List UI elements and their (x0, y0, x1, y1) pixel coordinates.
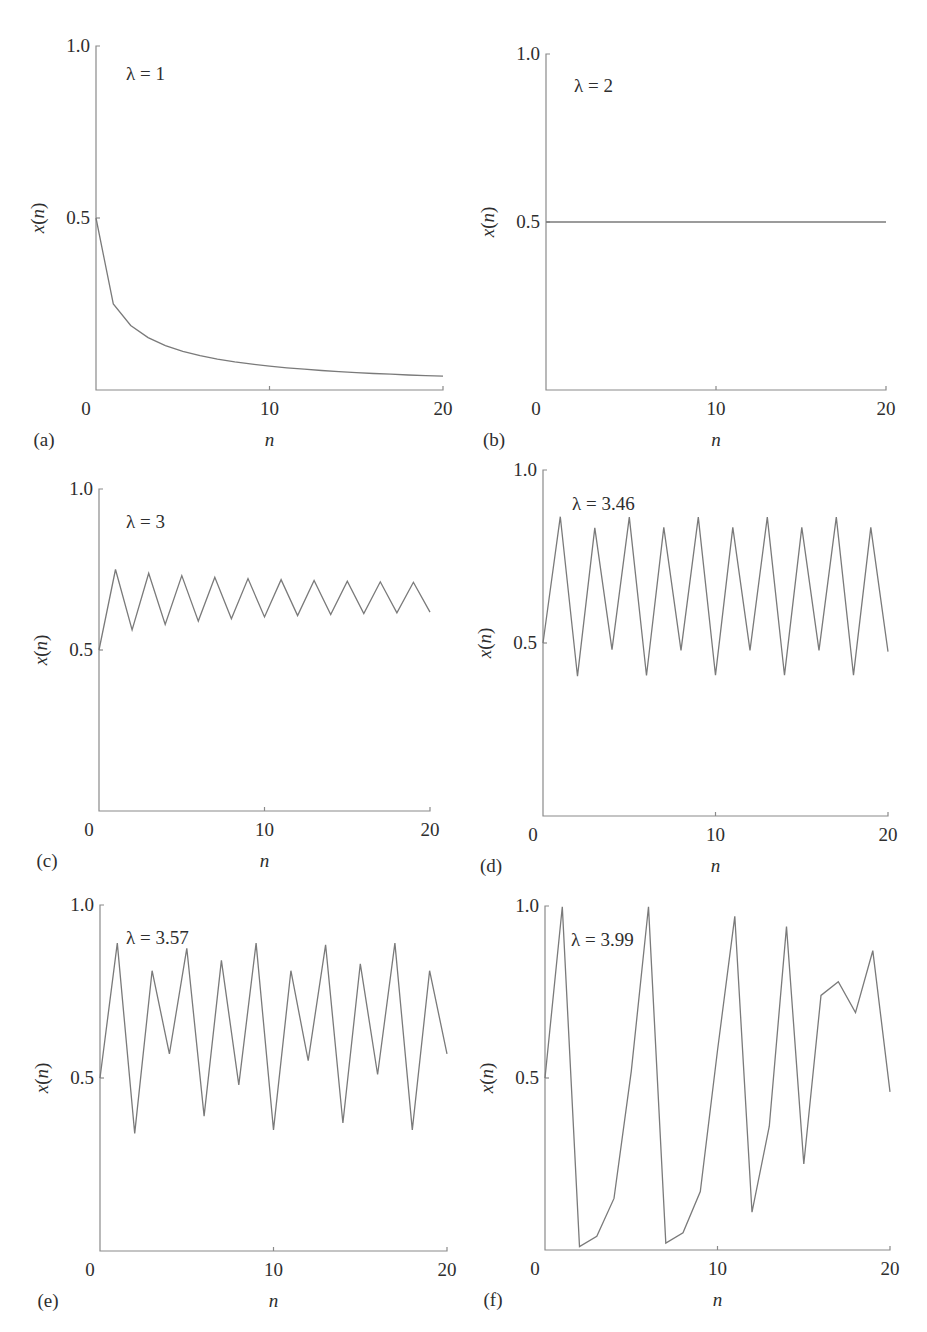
x-tick-label: 0 (81, 398, 91, 419)
series-line (99, 570, 430, 651)
x-tick-label: 0 (528, 824, 538, 845)
x-tick-label: 0 (85, 1259, 95, 1280)
panel-letter: (a) (33, 429, 54, 451)
y-axis-label: x(n) (27, 203, 49, 235)
y-tick-label: 0.5 (70, 1067, 94, 1088)
x-tick-label: 10 (264, 1259, 283, 1280)
panel-c: 1.00.501020nx(n)(c)λ = 3 (30, 478, 440, 872)
y-tick-label: 1.0 (66, 35, 90, 56)
y-axis-label: x(n) (477, 207, 499, 239)
y-tick-label: 1.0 (69, 478, 93, 499)
x-tick-label: 10 (260, 398, 279, 419)
axes-frame (99, 489, 430, 811)
panel-f: 1.00.501020nx(n)(f)λ = 3.99 (476, 895, 900, 1311)
lambda-annotation: λ = 3.57 (126, 927, 189, 948)
x-tick-label: 20 (881, 1258, 900, 1279)
axes-frame (545, 906, 890, 1250)
y-tick-label: 0.5 (66, 207, 90, 228)
y-tick-label: 0.5 (513, 632, 537, 653)
x-tick-label: 10 (707, 398, 726, 419)
x-axis-label: n (260, 850, 270, 871)
x-tick-label: 0 (84, 819, 94, 840)
figure-canvas: 1.00.501020nx(n)(a)λ = 11.00.501020nx(n)… (0, 0, 927, 1332)
x-tick-label: 20 (421, 819, 440, 840)
x-axis-label: n (269, 1290, 279, 1311)
panel-a: 1.00.501020nx(n)(a)λ = 1 (27, 35, 453, 451)
x-axis-label: n (711, 855, 721, 876)
y-tick-label: 0.5 (69, 639, 93, 660)
panel-d: 1.00.501020nx(n)(d)λ = 3.46 (474, 459, 898, 877)
x-tick-label: 10 (255, 819, 274, 840)
y-axis-label: x(n) (474, 628, 496, 660)
series-line (545, 907, 890, 1247)
x-axis-label: n (711, 429, 721, 450)
x-tick-label: 10 (706, 824, 725, 845)
series-line (543, 517, 888, 677)
x-tick-label: 0 (531, 398, 541, 419)
lambda-annotation: λ = 3 (126, 511, 165, 532)
lambda-annotation: λ = 3.46 (572, 493, 635, 514)
lambda-annotation: λ = 2 (574, 75, 613, 96)
y-axis-label: x(n) (476, 1063, 498, 1095)
y-axis-label: x(n) (31, 1063, 53, 1095)
y-tick-label: 1.0 (70, 894, 94, 915)
y-tick-label: 1.0 (516, 43, 540, 64)
panel-letter: (d) (480, 855, 502, 877)
axes-frame (96, 46, 443, 390)
panel-letter: (c) (36, 850, 57, 872)
y-tick-label: 0.5 (515, 1067, 539, 1088)
panel-b: 1.00.501020nx(n)(b)λ = 2 (477, 43, 896, 451)
x-tick-label: 0 (530, 1258, 540, 1279)
y-tick-label: 1.0 (513, 459, 537, 480)
x-tick-label: 20 (877, 398, 896, 419)
y-axis-label: x(n) (30, 635, 52, 667)
panel-letter: (b) (483, 429, 505, 451)
x-axis-label: n (265, 429, 275, 450)
logistic-map-figure: 1.00.501020nx(n)(a)λ = 11.00.501020nx(n)… (0, 0, 927, 1332)
panel-letter: (e) (37, 1290, 58, 1312)
series-line (96, 218, 443, 376)
x-tick-label: 20 (434, 398, 453, 419)
series-line (100, 943, 447, 1133)
axes-frame (100, 905, 447, 1251)
y-tick-label: 0.5 (516, 211, 540, 232)
x-tick-label: 10 (708, 1258, 727, 1279)
x-axis-label: n (713, 1289, 723, 1310)
x-tick-label: 20 (438, 1259, 457, 1280)
panel-e: 1.00.501020nx(n)(e)λ = 3.57 (31, 894, 457, 1312)
x-tick-label: 20 (879, 824, 898, 845)
lambda-annotation: λ = 3.99 (571, 929, 634, 950)
panel-letter: (f) (484, 1289, 503, 1311)
lambda-annotation: λ = 1 (126, 63, 165, 84)
y-tick-label: 1.0 (515, 895, 539, 916)
